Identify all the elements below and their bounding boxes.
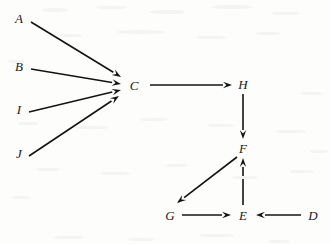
node-label-e: E <box>239 209 247 222</box>
node-label-h: H <box>238 78 247 91</box>
arrow-head-icon <box>112 89 121 95</box>
arrow-head-icon <box>223 82 232 88</box>
edge-b-to-c <box>31 69 121 86</box>
edge-d-to-e <box>256 212 301 218</box>
arrow-head-icon <box>112 79 121 85</box>
node-label-g: G <box>165 209 174 222</box>
edge-j-to-c <box>29 96 119 156</box>
figure-canvas: ABIJCHFGED <box>0 0 331 244</box>
edge-shaft <box>31 69 112 83</box>
edge-h-to-f <box>240 94 246 139</box>
node-label-i: I <box>17 103 21 116</box>
edge-shaft <box>31 22 113 72</box>
arrow-head-icon <box>256 212 265 218</box>
node-label-f: F <box>239 142 247 155</box>
arrow-head-icon <box>112 70 121 77</box>
node-label-d: D <box>308 209 317 222</box>
node-label-b: B <box>15 60 23 73</box>
edge-c-to-h <box>150 82 232 88</box>
edge-a-to-c <box>31 22 121 77</box>
arrow-head-icon <box>222 212 231 218</box>
node-label-j: J <box>16 147 22 160</box>
arrow-head-icon <box>240 130 246 139</box>
edge-f-to-g <box>177 157 237 203</box>
edge-e-to-f <box>240 158 246 205</box>
node-label-a: A <box>15 12 23 25</box>
arrow-head-icon <box>240 158 246 167</box>
arrow-head-icon <box>110 96 119 104</box>
edge-shaft <box>184 157 237 198</box>
node-label-c: C <box>130 79 139 92</box>
edge-i-to-c <box>29 89 121 112</box>
edge-g-to-e <box>182 212 231 218</box>
